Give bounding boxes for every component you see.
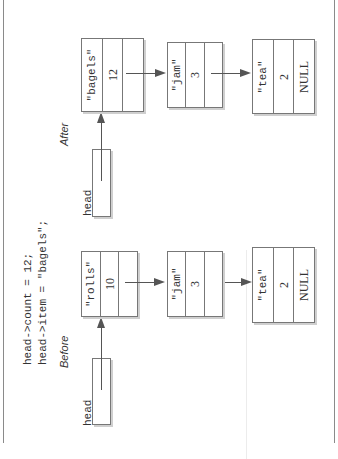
next-field xyxy=(205,252,222,316)
item-field: "rolls" xyxy=(82,252,101,316)
list-node: "jam" 3 xyxy=(167,251,223,317)
after-title: After xyxy=(58,123,70,146)
next-arrow-line xyxy=(211,73,241,74)
head-arrow-line xyxy=(101,322,102,390)
arrow-up-icon xyxy=(97,112,105,123)
page-border-right xyxy=(334,0,335,443)
code-line-1: head->count = 12; xyxy=(22,253,34,365)
arrow-up-icon xyxy=(97,317,105,328)
item-field: "jam" xyxy=(168,252,186,316)
item-field: "bagels" xyxy=(82,39,103,111)
next-field xyxy=(205,43,222,107)
next-arrow-line xyxy=(126,73,156,74)
list-node: "rolls" 10 xyxy=(81,251,138,317)
count-field: 3 xyxy=(186,252,204,316)
next-arrow-line xyxy=(225,282,242,283)
list-node: "jam" 3 xyxy=(167,42,223,108)
list-node: "tea" 2 NULL xyxy=(252,39,315,114)
list-node: "bagels" 12 xyxy=(81,38,144,112)
arrow-right-icon xyxy=(155,69,166,77)
item-field: "tea" xyxy=(253,40,274,113)
head-arrow-line xyxy=(101,118,102,181)
item-field: "jam" xyxy=(168,43,186,107)
code-line-2: head->item = "bagels"; xyxy=(37,220,49,365)
count-field: 2 xyxy=(274,248,295,322)
before-title: Before xyxy=(58,336,70,368)
next-field xyxy=(123,39,143,111)
count-field: 12 xyxy=(103,39,124,111)
count-field: 3 xyxy=(186,43,204,107)
item-field: "tea" xyxy=(253,248,274,322)
arrow-right-icon xyxy=(241,278,252,286)
count-field: 10 xyxy=(101,252,120,316)
count-field: 2 xyxy=(274,40,295,113)
page-border-left xyxy=(3,0,4,443)
next-field: NULL xyxy=(294,40,314,113)
next-field: NULL xyxy=(294,248,314,322)
list-node: "tea" 2 NULL xyxy=(252,247,315,323)
next-field xyxy=(119,252,137,316)
arrow-right-icon xyxy=(154,278,165,286)
arrow-right-icon xyxy=(240,69,251,77)
next-arrow-line xyxy=(125,282,155,283)
